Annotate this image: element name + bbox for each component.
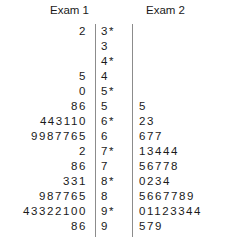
left-leaves: 5 <box>79 69 87 84</box>
stem-value: 6* <box>101 114 115 129</box>
table-row: 5 4 <box>0 69 230 84</box>
table-row: 443110 6* 23 <box>0 114 230 129</box>
table-row: 86 7 56778 <box>0 159 230 174</box>
stem-value: 7 <box>101 159 109 174</box>
right-leaves: 13444 <box>139 144 179 159</box>
table-row: 2 3* <box>0 24 230 39</box>
right-leaves: 5667789 <box>139 189 195 204</box>
table-row: 331 8* 0234 <box>0 174 230 189</box>
table-row: 0 5* <box>0 84 230 99</box>
right-leaves: 677 <box>139 129 163 144</box>
stem-value: 7* <box>101 144 115 159</box>
stem-value: 8* <box>101 174 115 189</box>
stem-value: 9* <box>101 204 115 219</box>
stem-value: 4* <box>101 54 115 69</box>
stem-value: 8 <box>101 189 109 204</box>
right-leaves: 23 <box>139 114 155 129</box>
right-leaves: 579 <box>139 219 163 234</box>
right-leaves: 0234 <box>139 174 171 189</box>
left-leaves: 43322100 <box>23 204 87 219</box>
stem-value: 9 <box>101 219 109 234</box>
table-row: 43322100 9* 01123344 <box>0 204 230 219</box>
stem-and-leaf-plot: Exam 1 Exam 2 2 3* 3 4* 5 4 0 5* <box>0 0 230 237</box>
table-row: 86 9 579 <box>0 219 230 234</box>
left-leaves: 331 <box>63 174 87 189</box>
header-exam-2: Exam 2 <box>146 3 185 17</box>
plot-headers: Exam 1 Exam 2 <box>0 0 230 24</box>
left-leaves: 2 <box>79 24 87 39</box>
stem-value: 4 <box>101 69 109 84</box>
table-row: 987765 8 5667789 <box>0 189 230 204</box>
left-leaves: 987765 <box>39 189 87 204</box>
table-row: 9987765 6 677 <box>0 129 230 144</box>
header-exam-1: Exam 1 <box>50 3 89 17</box>
left-leaves: 86 <box>71 219 87 234</box>
table-row: 3 <box>0 39 230 54</box>
left-leaves: 9987765 <box>31 129 87 144</box>
right-leaves: 5 <box>139 99 147 114</box>
left-leaves: 86 <box>71 159 87 174</box>
plot-rows: 2 3* 3 4* 5 4 0 5* 86 5 5 <box>0 24 230 234</box>
table-row: 2 7* 13444 <box>0 144 230 159</box>
stem-value: 3* <box>101 24 115 39</box>
right-leaves: 56778 <box>139 159 179 174</box>
left-leaves: 86 <box>71 99 87 114</box>
table-row: 4* <box>0 54 230 69</box>
left-leaves: 443110 <box>40 114 87 129</box>
stem-value: 5* <box>101 84 115 99</box>
table-row: 86 5 5 <box>0 99 230 114</box>
stem-value: 3 <box>101 39 109 54</box>
left-leaves: 0 <box>79 84 87 99</box>
left-leaves: 2 <box>79 144 87 159</box>
stem-value: 5 <box>101 99 109 114</box>
stem-value: 6 <box>101 129 109 144</box>
right-leaves: 01123344 <box>139 204 202 219</box>
